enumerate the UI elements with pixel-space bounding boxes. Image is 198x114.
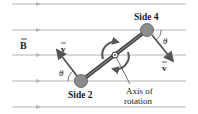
angle-label-side-2: θ — [59, 68, 64, 78]
side-2-label: Side 2 — [68, 90, 93, 100]
side-2-ball — [75, 75, 88, 88]
axis-label-line-2: rotation — [124, 96, 152, 106]
magnetic-loop-rotation-diagram: B Side 4 Side 2 v v θ θ Axis of rotation — [0, 0, 198, 114]
angle-arc-side-4 — [156, 30, 161, 40]
velocity-label-side-2: v — [61, 44, 66, 54]
field-label-b: B — [20, 40, 27, 51]
axis-label-line-1: Axis of — [126, 86, 153, 96]
side-4-label: Side 4 — [134, 12, 159, 22]
angle-arc-side-2 — [68, 71, 73, 81]
angle-label-side-4: θ — [163, 36, 168, 46]
field-arrow-icon — [36, 79, 41, 83]
field-arrow-icon — [36, 2, 41, 6]
field-arrow-icon — [36, 105, 41, 109]
axis-dot — [114, 54, 116, 56]
field-arrow-icon — [36, 28, 41, 32]
side-4-ball — [141, 24, 154, 37]
field-arrow-icon — [36, 53, 41, 57]
velocity-label-side-4: v — [162, 63, 167, 73]
